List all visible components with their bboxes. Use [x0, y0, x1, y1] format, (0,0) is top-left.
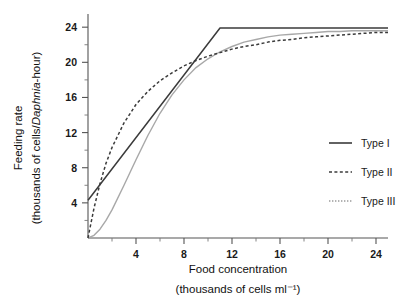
y-tick-label: 16: [65, 91, 77, 103]
x-tick-label: 4: [133, 248, 139, 260]
series-line-type-ii: [88, 32, 388, 238]
chart-figure: 4812162024 4812162024 Feeding rate (thou…: [0, 0, 415, 308]
y-tick-label: 4: [71, 197, 77, 209]
legend-item-type-iii[interactable]: Type III: [329, 195, 395, 207]
y-tick-label: 24: [65, 21, 77, 33]
legend-item-type-i[interactable]: Type I: [329, 137, 390, 149]
y-axis-sub-post: -hour): [30, 52, 42, 83]
y-axis-title-group: Feeding rate (thousands of cells/Daphnia…: [12, 52, 42, 225]
y-axis-tick-labels: 4812162024: [65, 21, 77, 209]
legend-label-type-i: Type I: [361, 137, 390, 149]
legend: Type I Type II Type III: [329, 137, 395, 207]
x-tick-label: 8: [181, 248, 187, 260]
y-tick-label: 20: [65, 56, 77, 68]
series-line-type-iii: [88, 31, 388, 238]
feeding-rate-chart: 4812162024 4812162024 Feeding rate (thou…: [0, 0, 415, 308]
x-tick-label: 16: [274, 248, 286, 260]
x-axis-title-sub: (thousands of cells ml⁻¹): [176, 283, 301, 295]
axes-group: [88, 14, 388, 238]
y-axis-title-main: Feeding rate: [12, 106, 24, 171]
legend-label-type-ii: Type II: [361, 166, 393, 178]
x-axis-tick-labels: 4812162024: [133, 248, 382, 260]
y-tick-label: 12: [65, 127, 77, 139]
y-tick-label: 8: [71, 162, 77, 174]
x-axis-ticks: [112, 238, 376, 244]
y-axis-sub-italic: Daphnia: [30, 82, 42, 125]
y-axis-title-sub: (thousands of cells/Daphnia-hour): [30, 52, 42, 225]
x-axis-title-main: Food concentration: [189, 263, 287, 275]
legend-label-type-iii: Type III: [361, 195, 395, 207]
series-line-type-i: [88, 28, 388, 200]
y-axis-ticks: [82, 27, 88, 220]
legend-item-type-ii[interactable]: Type II: [329, 166, 393, 178]
x-tick-label: 12: [226, 248, 238, 260]
x-tick-label: 24: [370, 248, 382, 260]
series-group: [88, 28, 388, 238]
x-axis-title-group: Food concentration (thousands of cells m…: [176, 263, 301, 295]
x-tick-label: 20: [322, 248, 334, 260]
y-axis-sub-pre: (thousands of cells/: [30, 124, 42, 224]
